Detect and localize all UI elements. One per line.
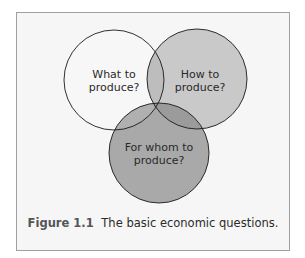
label-line: What to xyxy=(84,68,144,81)
label-line: produce? xyxy=(170,81,230,94)
label-line: produce? xyxy=(84,81,144,94)
label-how-to-produce: How to produce? xyxy=(170,68,230,94)
label-line: produce? xyxy=(119,154,199,167)
label-what-to-produce: What to produce? xyxy=(84,68,144,94)
label-line: How to xyxy=(170,68,230,81)
label-for-whom-to-produce: For whom to produce? xyxy=(119,141,199,167)
caption-text: The basic economic questions. xyxy=(101,216,278,230)
figure-number: Figure 1.1 xyxy=(28,216,94,230)
label-line: For whom to xyxy=(119,141,199,154)
figure-caption: Figure 1.1 The basic economic questions. xyxy=(16,216,290,230)
